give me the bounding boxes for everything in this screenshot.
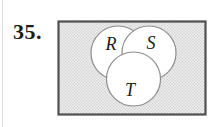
page-edge-line	[2, 0, 3, 127]
problem-number: 35.	[13, 21, 42, 43]
set-label-r: R	[105, 34, 117, 54]
set-label-s: S	[147, 33, 156, 53]
venn-diagram-svg: R S T	[57, 20, 208, 118]
venn-diagram-figure: R S T	[57, 20, 208, 118]
